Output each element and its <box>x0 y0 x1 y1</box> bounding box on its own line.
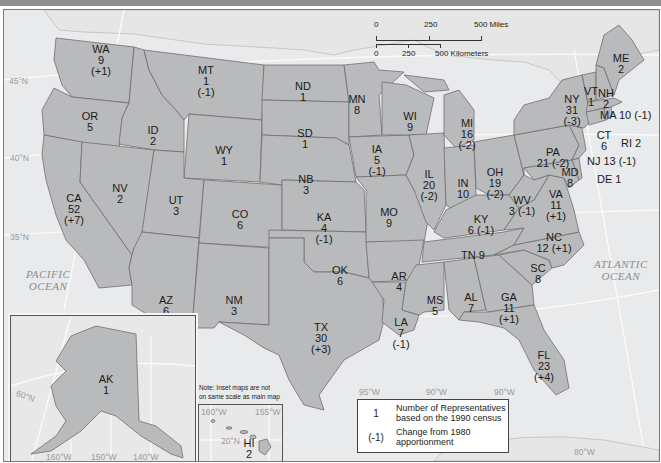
hi-lon-155-label: 155°W <box>255 407 281 417</box>
scale-tick <box>376 36 377 40</box>
scale-tick <box>408 44 409 48</box>
label-ut: UT3 <box>169 195 184 217</box>
atlantic-ocean-label: ATLANTIC OCEAN <box>594 258 648 282</box>
hawaii-inset: 160°W 155°W 20°N HI2 <box>198 404 283 462</box>
scale-miles-0: 0 <box>374 20 378 29</box>
label-nv: NV2 <box>112 183 127 205</box>
label-ca: CA52(+7) <box>64 193 84 226</box>
label-la: LA7(-1) <box>392 317 409 350</box>
label-nd: ND1 <box>295 81 311 103</box>
scale-tick <box>440 44 441 48</box>
inset-note: Note: Inset maps are not on same scale a… <box>199 383 280 401</box>
label-md: MD8 <box>561 167 578 189</box>
label-tx: TX30(+3) <box>311 322 331 355</box>
label-ka: KA4(-1) <box>315 212 332 245</box>
label-mo: MO9 <box>380 207 398 229</box>
ak-lon-160-label: 160°W <box>46 452 72 462</box>
label-ak: AK1 <box>99 374 114 396</box>
label-wa: WA9(+1) <box>91 44 111 77</box>
label-ms: MS5 <box>427 295 444 317</box>
pacific-ocean-label: PACIFIC OCEAN <box>26 268 70 292</box>
ak-lon-150-label: 150°W <box>91 452 117 462</box>
title-bar <box>0 0 661 6</box>
label-ia: IA5(-1) <box>368 144 385 177</box>
label-wy: WY1 <box>215 145 233 167</box>
label-or: OR5 <box>82 111 99 133</box>
scale-miles-bar <box>376 40 482 41</box>
legend-reps-symbol: 1 <box>364 408 388 419</box>
alaska-inset: AK1 60°N 160°W 150°W 140°W <box>10 315 196 462</box>
legend-change-text: Change from 1980 apportionment <box>396 427 471 447</box>
lon-95-label: 95°W <box>359 387 380 397</box>
island-kauai <box>211 420 215 423</box>
label-ar: AR4 <box>391 271 406 293</box>
label-sd: SD1 <box>297 128 312 150</box>
label-ny: NY31(-3) <box>563 94 580 127</box>
label-fl: FL23(+4) <box>534 350 554 383</box>
scale-miles-250: 250 <box>424 20 437 29</box>
legend: 1 Number of Representatives based on the… <box>357 399 509 453</box>
legend-reps-text: Number of Representatives based on the 1… <box>396 403 506 423</box>
label-nj: NJ 13 (-1) <box>587 156 636 167</box>
lon-90b-label: 90°W <box>494 387 515 397</box>
scale-miles-500: 500 Miles <box>474 20 508 29</box>
label-il: IL20(-2) <box>420 169 437 202</box>
lat-35-label: 35°N <box>10 232 29 242</box>
label-mn: MN8 <box>348 94 365 116</box>
label-va: VA11(+1) <box>546 189 566 222</box>
scale-km-0: 0 <box>374 49 378 58</box>
label-wi: WI9 <box>403 111 416 133</box>
label-oh: OH19(-2) <box>486 167 503 200</box>
label-nh: NH2 <box>598 88 614 110</box>
legend-change-symbol: (-1) <box>364 432 388 443</box>
label-ok: OK6 <box>332 265 348 287</box>
scale-tick <box>429 36 430 40</box>
label-mi: MI16(-2) <box>458 118 475 151</box>
lat-40-label: 40°N <box>10 153 29 163</box>
scale-tick <box>376 44 377 48</box>
label-de: DE 1 <box>597 174 621 185</box>
ak-lon-140-label: 140°W <box>133 452 159 462</box>
hi-lat-20-label: 20°N <box>221 436 240 446</box>
scale-km-250: 250 <box>402 49 415 58</box>
label-id: ID2 <box>148 125 159 147</box>
lon-90a-label: 90°W <box>426 387 447 397</box>
label-ga: GA11(+1) <box>499 292 519 325</box>
map-frame: PACIFIC OCEAN ATLANTIC OCEAN 45°N 40°N 3… <box>3 9 660 462</box>
label-ma: MA 10 (-1) <box>600 110 651 121</box>
label-me: ME2 <box>613 53 630 75</box>
scale-km-500: 500 Kilometers <box>435 49 488 58</box>
island-oahu <box>226 427 232 429</box>
scale-bar: 0 250 500 Miles 0 250 500 Kilometers <box>374 20 524 60</box>
label-ky: KY6 (-1) <box>468 214 494 236</box>
label-co: CO6 <box>232 209 249 231</box>
label-wv: WV3 (-1) <box>509 195 535 217</box>
scale-tick <box>481 36 482 40</box>
hi-lon-160-label: 160°W <box>201 407 227 417</box>
label-mt: MT1(-1) <box>197 65 214 98</box>
label-sc: SC8 <box>530 263 545 285</box>
label-ri: RI 2 <box>621 138 641 149</box>
label-ct: CT6 <box>597 130 612 152</box>
island-molokai <box>240 431 248 434</box>
lat-45-label: 45°N <box>9 76 28 86</box>
label-nm: NM3 <box>225 295 242 317</box>
label-nb: NB3 <box>298 174 313 196</box>
label-tn: TN 9 <box>461 250 485 261</box>
label-in: IN10 <box>457 178 469 200</box>
label-hi: HI2 <box>244 438 255 460</box>
label-al: AL7 <box>464 292 477 314</box>
lon-80-label: 80°W <box>574 447 595 457</box>
label-nc: NC12 (+1) <box>536 232 571 254</box>
label-vt: VT1 <box>584 86 598 108</box>
